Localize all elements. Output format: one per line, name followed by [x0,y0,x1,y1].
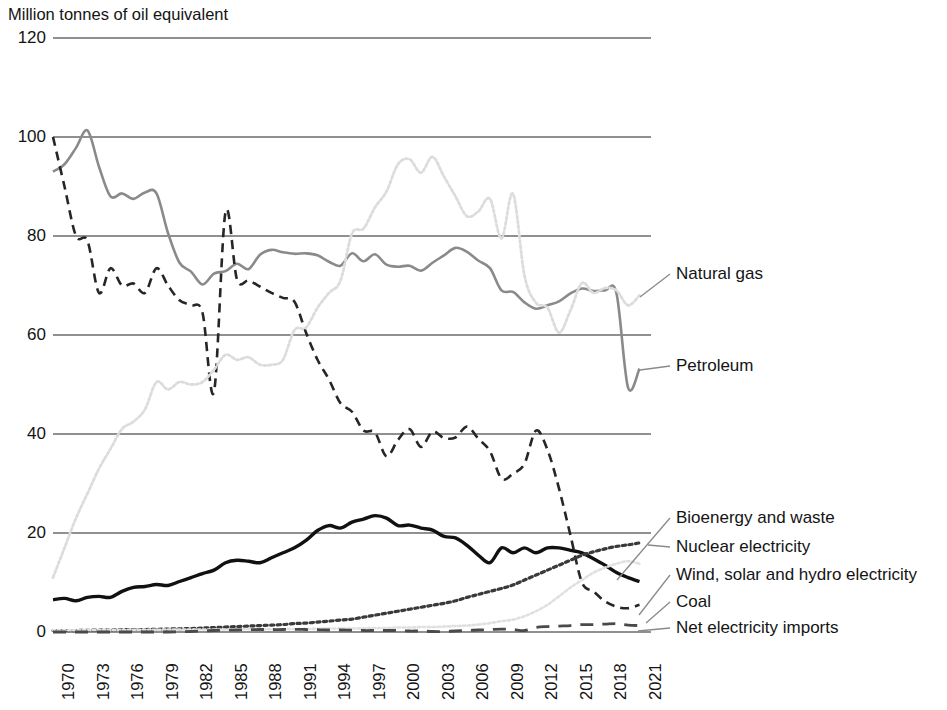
legend-label-coal: Coal [676,592,711,612]
y-tick-0: 0 [0,622,46,642]
legend-label-nuclear: Nuclear electricity [676,537,810,557]
x-tick-2021: 2021 [646,663,665,700]
series-line-petroleum [53,130,640,391]
legend-leader-coal [646,602,670,623]
plot-area [0,0,947,710]
series-line-net-electricity-imports [53,624,640,632]
energy-consumption-chart: Million tonnes of oil equivalent 0204060… [0,0,947,710]
legend-label-natural-gas: Natural gas [676,264,763,284]
x-tick-1979: 1979 [163,663,182,700]
x-tick-1982: 1982 [197,663,216,700]
x-tick-1973: 1973 [94,663,113,700]
series-line-wind-solar-and-hydro-electricity [53,561,640,630]
y-tick-120: 120 [0,28,46,48]
x-tick-2012: 2012 [542,663,561,700]
y-tick-20: 20 [0,523,46,543]
x-tick-2003: 2003 [439,663,458,700]
x-tick-1985: 1985 [232,663,251,700]
series-line-coal [53,137,640,608]
x-tick-2006: 2006 [473,663,492,700]
legend-leader-natural-gas [640,274,670,297]
y-tick-80: 80 [0,226,46,246]
legend-label-wind-solar-hydro: Wind, solar and hydro electricity [676,565,917,585]
legend-leader-nuclear [648,545,670,547]
legend-leader-wind-solar-hydro [639,575,670,615]
series-line-nuclear-electricity [53,543,640,631]
legend-label-net-imports: Net electricity imports [676,618,838,638]
x-tick-2000: 2000 [404,663,423,700]
y-tick-40: 40 [0,424,46,444]
x-tick-1991: 1991 [301,663,320,700]
y-tick-60: 60 [0,325,46,345]
legend-leader-petroleum [640,366,670,370]
series-line-bioenergy-and-waste [53,516,640,601]
y-axis-tick-labels: 020406080100120 [0,0,46,710]
legend-label-petroleum: Petroleum [676,356,753,376]
x-tick-1970: 1970 [59,663,78,700]
series-line-natural-gas [53,157,640,578]
x-tick-1988: 1988 [266,663,285,700]
x-tick-1976: 1976 [128,663,147,700]
x-tick-2009: 2009 [508,663,527,700]
legend-leader-bioenergy [617,518,670,580]
legend-leader-net-imports [638,628,670,631]
y-tick-100: 100 [0,127,46,147]
x-tick-1997: 1997 [370,663,389,700]
legend-label-bioenergy: Bioenergy and waste [676,508,835,528]
x-tick-1994: 1994 [335,663,354,700]
x-tick-2018: 2018 [611,663,630,700]
x-tick-2015: 2015 [577,663,596,700]
